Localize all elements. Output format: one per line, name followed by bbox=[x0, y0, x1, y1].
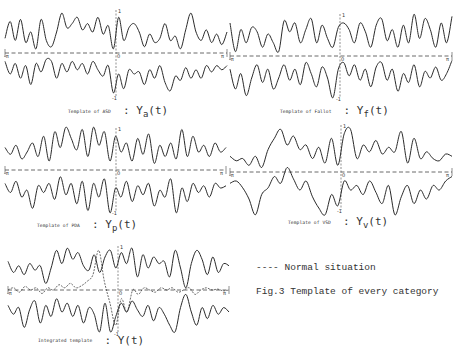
caption-asd: Template of ASD: Ya(t) bbox=[68, 101, 168, 120]
origin-label: 0 bbox=[119, 290, 122, 296]
panel-integrated: 1-10-ππ bbox=[7, 244, 229, 337]
origin-label: 0 bbox=[341, 56, 344, 62]
caption-integrated-label: Integrated template bbox=[38, 338, 92, 343]
y-top-label: 1 bbox=[120, 244, 123, 250]
panel-pda: 1-10-ππ bbox=[4, 126, 226, 216]
caption-vsd: Template of VSD: Yv(t) bbox=[288, 212, 388, 231]
figure-title: Fig.3 Template of every category bbox=[256, 286, 438, 297]
caption-integrated: Integrated template: Y(t) bbox=[38, 330, 144, 349]
upper-envelope-curve bbox=[8, 248, 229, 288]
caption-pda-symbol: : Yp(t) bbox=[92, 218, 137, 231]
caption-vsd-label: Template of VSD bbox=[288, 220, 331, 225]
caption-pda: Template of PDA: Yp(t) bbox=[37, 215, 137, 234]
caption-vsd-symbol: : Yv(t) bbox=[343, 215, 388, 228]
panel-vsd: 1-10-ππ bbox=[229, 123, 452, 215]
caption-fallot-symbol: : Yf(t) bbox=[344, 104, 389, 117]
figure-canvas: 1-10-ππ1-10-ππ1-10-ππ1-10-ππ1-10-ππ bbox=[0, 0, 460, 352]
lower-envelope-curve bbox=[5, 177, 226, 213]
x-right-label: π bbox=[221, 53, 224, 59]
x-right-label: π bbox=[446, 172, 449, 178]
upper-envelope-curve bbox=[230, 14, 452, 52]
upper-envelope-curve bbox=[5, 127, 226, 163]
origin-label: 0 bbox=[117, 170, 120, 176]
caption-asd-symbol: : Ya(t) bbox=[123, 104, 168, 117]
caption-fallot: Template of Fallot: Yf(t) bbox=[280, 101, 389, 120]
origin-label: 0 bbox=[342, 172, 345, 178]
panel-asd: 1-10-ππ bbox=[4, 8, 227, 101]
x-right-label: π bbox=[446, 56, 449, 62]
caption-fallot-label: Template of Fallot bbox=[280, 109, 332, 114]
panel-fallot: 1-10-ππ bbox=[229, 12, 452, 102]
legend-normal-situation: ---- Normal situation bbox=[256, 262, 376, 273]
caption-pda-label: Template of PDA bbox=[37, 223, 80, 228]
lower-envelope-curve bbox=[230, 60, 452, 97]
y-top-label: 1 bbox=[342, 12, 345, 18]
x-right-label: π bbox=[220, 170, 223, 176]
y-top-label: 1 bbox=[118, 126, 121, 132]
y-top-label: 1 bbox=[118, 8, 121, 14]
origin-label: 0 bbox=[117, 53, 120, 59]
caption-integrated-symbol: : Y(t) bbox=[104, 334, 144, 347]
caption-asd-label: Template of ASD bbox=[68, 109, 111, 114]
y-top-label: 1 bbox=[343, 123, 346, 129]
